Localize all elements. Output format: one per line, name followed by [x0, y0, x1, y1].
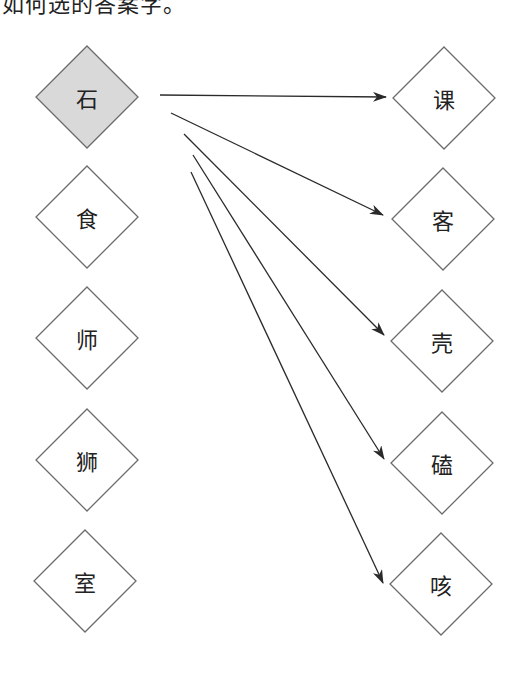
arrow-1 — [171, 113, 383, 215]
left-node-0[interactable]: 石 — [36, 46, 138, 148]
left-node-label: 室 — [34, 530, 136, 632]
left-node-4[interactable]: 室 — [34, 530, 136, 632]
left-node-1[interactable]: 食 — [36, 166, 138, 268]
right-node-label: 咳 — [390, 533, 492, 635]
left-node-3[interactable]: 狮 — [36, 409, 138, 511]
right-node-1[interactable]: 客 — [392, 168, 494, 270]
left-node-label: 狮 — [36, 409, 138, 511]
right-node-4[interactable]: 咳 — [390, 533, 492, 635]
right-node-label: 壳 — [391, 290, 493, 392]
left-node-2[interactable]: 师 — [36, 287, 138, 389]
right-node-3[interactable]: 磕 — [391, 412, 493, 514]
left-node-label: 师 — [36, 287, 138, 389]
right-node-2[interactable]: 壳 — [391, 290, 493, 392]
arrow-0 — [160, 95, 386, 97]
left-node-label: 石 — [36, 46, 138, 148]
right-node-label: 客 — [392, 168, 494, 270]
left-node-label: 食 — [36, 166, 138, 268]
right-node-label: 课 — [393, 47, 495, 149]
right-node-label: 磕 — [391, 412, 493, 514]
arrow-4 — [191, 172, 383, 583]
arrow-2 — [184, 134, 384, 335]
right-node-0[interactable]: 课 — [393, 47, 495, 149]
